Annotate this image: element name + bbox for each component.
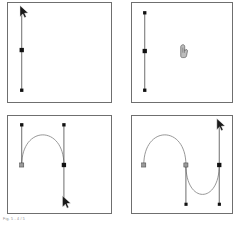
anchor-point-square[interactable] <box>20 89 23 92</box>
figure-caption: Fig. 5 - 4 / 5 <box>3 217 25 222</box>
panel-4-canvas <box>132 116 232 213</box>
anchor-point-open-square[interactable] <box>142 163 146 167</box>
panel-drag-first-handle[interactable] <box>7 2 112 103</box>
handle-line-group <box>22 125 64 206</box>
panel-2-canvas <box>132 3 232 102</box>
arrow-cursor <box>62 196 70 208</box>
panel-s-curve-segment[interactable] <box>131 115 233 214</box>
arrow-cursor-glyph <box>20 5 28 17</box>
anchor-point-square[interactable] <box>62 163 66 167</box>
arrow-cursor <box>20 5 28 17</box>
arrow-cursor-glyph <box>217 118 225 130</box>
handle-endpoint-square[interactable] <box>62 123 65 126</box>
anchor-point-square[interactable] <box>20 48 24 52</box>
anchor-group <box>142 163 222 206</box>
panel-3-canvas <box>8 116 111 213</box>
handle-endpoint-square[interactable] <box>184 203 187 206</box>
anchor-point-square[interactable] <box>143 49 147 53</box>
anchor-point-open-square[interactable] <box>184 163 188 167</box>
handle-endpoint-square[interactable] <box>218 203 221 206</box>
arrow-cursor <box>217 118 225 130</box>
handle-line-group <box>186 124 219 204</box>
panel-release-first-handle[interactable] <box>131 2 233 103</box>
bezier-curve-arc[interactable] <box>22 135 64 165</box>
anchor-point-square[interactable] <box>143 89 146 92</box>
panel-arc-segment[interactable] <box>7 115 112 214</box>
bezier-curve-first-hump[interactable] <box>144 135 186 165</box>
anchor-point-open-square[interactable] <box>20 163 24 167</box>
curve-group <box>144 135 219 195</box>
panel-1-canvas <box>8 3 111 102</box>
pen-cursor-glyph <box>181 45 188 58</box>
arrow-cursor-glyph <box>62 196 70 208</box>
handle-endpoint-square[interactable] <box>20 123 23 126</box>
anchor-point-square[interactable] <box>217 163 221 167</box>
anchor-point-square[interactable] <box>143 11 146 14</box>
bezier-tutorial-figure: Fig. 5 - 4 / 5 <box>0 0 233 227</box>
bezier-curve-second-hump[interactable] <box>186 165 219 194</box>
pen-cursor <box>181 45 188 58</box>
curve-group <box>22 135 64 165</box>
